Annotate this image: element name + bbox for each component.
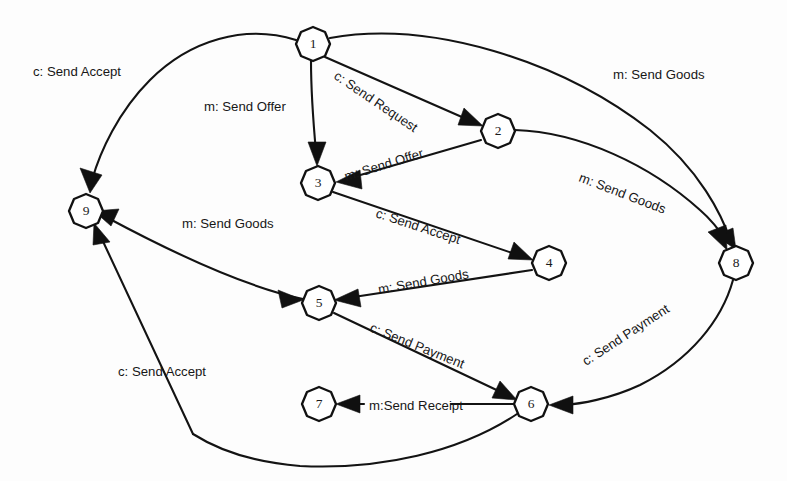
arrowhead-2-from-1	[458, 108, 483, 126]
interaction-diagram: 1 2 3 4 5	[0, 0, 787, 481]
arrowhead-4-from-3	[508, 242, 533, 260]
node-2-label: 2	[495, 123, 502, 138]
node-9-label: 9	[83, 203, 90, 218]
node-4-label: 4	[546, 255, 553, 270]
arrowhead-5-inbound-left	[278, 290, 303, 308]
node-7[interactable]: 7	[302, 387, 336, 421]
edge-label-m-send-offer-1-3: m: Send Offer	[204, 99, 286, 114]
edge-path-6-9	[193, 414, 517, 467]
edge-label-c-send-request-1-2: c: Send Request	[331, 68, 420, 135]
edge-8-to-6	[549, 280, 733, 414]
edge-label-c-send-payment-8-6: c: Send Payment	[579, 301, 672, 368]
node-6[interactable]: 6	[514, 387, 548, 421]
arrowhead-5-from-4	[334, 289, 361, 307]
node-9[interactable]: 9	[69, 194, 103, 228]
node-1-label: 1	[310, 36, 317, 51]
arrowhead-9-from-6	[93, 223, 110, 245]
node-4[interactable]: 4	[532, 246, 566, 280]
arrowhead-3-from-1	[308, 142, 326, 166]
edge-label-m-send-receipt-6-7: m:Send Receipt	[369, 398, 463, 413]
edge-label-m-send-goods-4-5: m: Send Goods	[377, 266, 470, 297]
arrowhead-9-from-1	[80, 168, 102, 193]
edge-label-c-send-accept-1-9: c: Send Accept	[33, 64, 121, 79]
node-1[interactable]: 1	[296, 27, 330, 61]
edge-label-c-send-accept-6-9: c: Send Accept	[118, 364, 206, 379]
edge-path-8-6	[563, 280, 733, 405]
node-8[interactable]: 8	[719, 246, 753, 280]
edge-path-6-9-tail	[100, 235, 193, 434]
edge-label-m-send-goods-1-8: m: Send Goods	[613, 67, 705, 82]
arrowhead-7-from-6	[336, 395, 360, 413]
graph-canvas: 1 2 3 4 5	[0, 0, 787, 481]
node-6-label: 6	[528, 396, 535, 411]
edge-path-1-3	[311, 61, 316, 152]
edge-label-c-send-payment-5-6: c: Send Payment	[368, 320, 467, 372]
edge-label-m-send-goods-5-9: m: Send Goods	[182, 216, 274, 231]
node-8-label: 8	[733, 255, 740, 270]
edge-1-to-3	[308, 61, 326, 166]
node-5[interactable]: 5	[302, 286, 336, 320]
node-2[interactable]: 2	[481, 114, 515, 148]
node-3[interactable]: 3	[301, 166, 335, 200]
edge-label-c-send-accept-3-4: c: Send Accept	[374, 206, 463, 248]
edge-label-m-send-offer-2-3: m: Send Offer	[342, 145, 425, 183]
arrowhead-6-from-8	[549, 396, 573, 414]
node-3-label: 3	[315, 175, 322, 190]
arrowhead-6-from-5	[492, 381, 517, 400]
node-7-label: 7	[316, 396, 323, 411]
edge-label-layer: c: Send Accept m: Send Offer c: Send Req…	[33, 64, 705, 413]
edge-6-to-9	[93, 223, 517, 467]
node-5-label: 5	[316, 295, 323, 310]
arrowhead-8-from-2	[708, 225, 727, 250]
